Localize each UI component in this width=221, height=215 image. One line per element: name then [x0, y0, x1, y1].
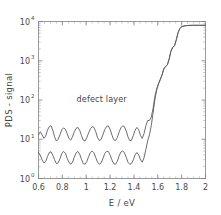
y-tick-label: 10	[20, 96, 30, 105]
annotation-defect-layer: defect layer	[77, 95, 128, 104]
x-tick-label: 1	[84, 183, 89, 192]
x-tick-label: 1.8	[175, 183, 188, 192]
x-tick-label: 2	[203, 183, 208, 192]
y-tick-exponent: 0	[31, 172, 35, 178]
series-line-1	[39, 25, 206, 141]
y-tick-exponent: 1	[31, 133, 35, 139]
y-tick-exponent: 2	[31, 93, 35, 99]
x-tick-label: 1.6	[151, 183, 164, 192]
y-tick-label: 10	[20, 18, 30, 27]
pds-spectrum-figure: 0.60.811.21.41.61.82 100101102103104 def…	[0, 0, 221, 215]
x-tick-label: 1.4	[128, 183, 141, 192]
y-tick-label: 10	[20, 175, 30, 184]
x-axis-title: E / eV	[109, 198, 135, 208]
x-tick-label: 0.6	[32, 183, 45, 192]
y-tick-labels: 100101102103104	[20, 15, 35, 184]
x-tick-labels: 0.60.811.21.41.61.82	[32, 183, 208, 192]
y-tick-exponent: 4	[31, 15, 35, 21]
x-tick-label: 0.8	[56, 183, 69, 192]
y-axis-title: PDS - signal	[4, 73, 14, 127]
x-tick-label: 1.2	[104, 183, 117, 192]
chart-annotations: defect layer	[77, 95, 128, 104]
chart-canvas: 0.60.811.21.41.61.82 100101102103104 def…	[0, 0, 221, 215]
y-tick-exponent: 3	[31, 54, 35, 60]
y-tick-label: 10	[20, 57, 30, 66]
y-tick-label: 10	[20, 135, 30, 144]
